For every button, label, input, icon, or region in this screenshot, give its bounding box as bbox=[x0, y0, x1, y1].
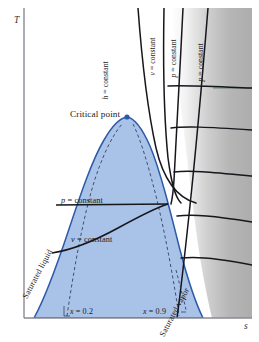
critical-point-marker bbox=[124, 114, 129, 119]
critical-point-label: Critical point bbox=[70, 110, 120, 119]
dome-isobar-label: p = constant bbox=[61, 197, 103, 205]
superheat-label-p-constant-1: p = constant bbox=[170, 39, 178, 77]
ts-diagram-figure: T s Critical point p = constant v = cons… bbox=[0, 0, 259, 342]
superheat-label-p-constant-2: p = constant bbox=[197, 43, 205, 81]
quality-label-low: x = 0.2 bbox=[70, 308, 93, 316]
x-axis-label: s bbox=[244, 322, 248, 332]
superheat-label-v-constant: v = constant bbox=[149, 38, 157, 76]
ts-diagram-canvas bbox=[0, 0, 259, 342]
y-axis-label: T bbox=[14, 16, 19, 26]
superheat-label-h-constant: h = constant bbox=[102, 61, 110, 99]
saturation-dome bbox=[34, 117, 203, 318]
quality-label-high: x = 0.9 bbox=[143, 308, 166, 316]
dome-isochor-label: v = constant bbox=[71, 236, 112, 244]
